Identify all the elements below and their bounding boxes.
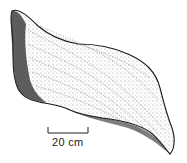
scale-bar-label: 20 cm [52,136,83,148]
scale-bar [48,127,88,133]
shell-outline [11,10,174,154]
shell-illustration [0,0,187,163]
